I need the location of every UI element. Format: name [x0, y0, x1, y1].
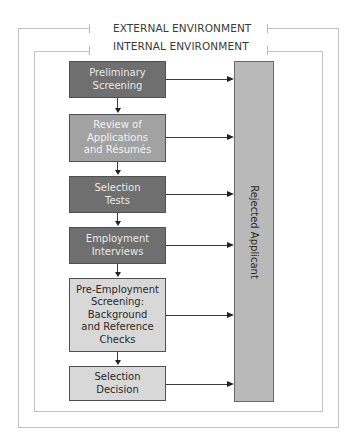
step-selection-decision: Selection Decision [69, 366, 166, 401]
arrow-down-icon [115, 272, 121, 277]
step-label: Employment Interviews [86, 233, 149, 258]
step-review-applications: Review of Applications and Résumés [69, 114, 166, 162]
step-pre-employment-screening: Pre-Employment Screening: Background and… [69, 278, 166, 352]
arrow-down-icon [115, 221, 121, 226]
arrow-right-icon [227, 76, 234, 82]
rejected-applicant-label: Rejected Applicant [249, 185, 260, 279]
arrow-right-icon [227, 242, 234, 248]
step-preliminary-screening: Preliminary Screening [69, 61, 166, 98]
arrow-down-icon [115, 360, 121, 365]
step-label: Pre-Employment Screening: Background and… [76, 284, 159, 347]
internal-environment-label: INTERNAL ENVIRONMENT [113, 40, 249, 52]
arrow-down-icon [115, 170, 121, 175]
arrow-right-icon [227, 191, 234, 197]
arrow-right-icon [227, 381, 234, 387]
rejected-applicant-box: Rejected Applicant [234, 61, 274, 402]
arrow-right-icon [227, 134, 234, 140]
step-employment-interviews: Employment Interviews [69, 227, 166, 264]
step-label: Preliminary Screening [89, 67, 145, 92]
external-environment-label: EXTERNAL ENVIRONMENT [113, 22, 251, 34]
step-label: Selection Decision [94, 371, 140, 396]
step-label: Review of Applications and Résumés [84, 119, 151, 157]
step-label: Selection Tests [94, 182, 140, 207]
step-selection-tests: Selection Tests [69, 176, 166, 213]
arrow-down-icon [115, 108, 121, 113]
arrow-right-icon [227, 312, 234, 318]
